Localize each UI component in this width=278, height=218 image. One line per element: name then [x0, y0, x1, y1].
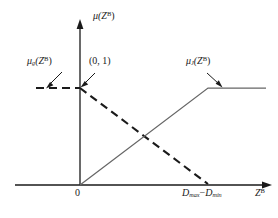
mu-j-arg-open: (Z — [194, 55, 203, 66]
plot-canvas — [0, 0, 278, 218]
mu-g-arg-close: ) — [48, 55, 51, 66]
y-axis-label: μ(ZB) — [93, 11, 115, 21]
membership-function-figure: μ(ZB) ZB 0 Dmax−Dmin μg(ZB) (0, 1) μJ(ZB… — [0, 0, 278, 218]
intercept-point-annotation: (0, 1) — [89, 56, 111, 66]
x-axis-label: ZB — [255, 188, 265, 198]
decreasing-membership-curve — [36, 88, 208, 184]
dmin-subscript: min — [212, 191, 221, 198]
axis-group — [15, 19, 272, 188]
x-axis-label-superscript: B — [261, 187, 265, 194]
annotation-arrows — [46, 72, 223, 89]
origin-tick-label: 0 — [75, 188, 80, 198]
mu-g-arg-open: (Z — [35, 55, 44, 66]
arrowhead-intercept — [81, 81, 89, 88]
increasing-curve-path — [80, 88, 266, 185]
y-axis-arrowhead — [77, 19, 84, 29]
mu-j-arg-close: ) — [207, 55, 210, 66]
y-axis-label-close: ) — [111, 10, 114, 21]
y-axis-label-mu: μ(Z — [93, 10, 107, 21]
increasing-membership-curve — [80, 88, 266, 185]
increasing-curve-annotation: μJ(ZB) — [186, 56, 210, 67]
dmax-subscript: max — [189, 191, 199, 198]
x-tick-label-dmax-dmin: Dmax−Dmin — [182, 188, 222, 199]
decreasing-curve-annotation: μg(ZB) — [27, 56, 52, 67]
